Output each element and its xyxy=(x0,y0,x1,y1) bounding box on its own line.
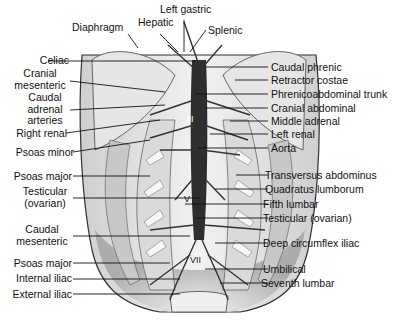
label-fifth-lumbar: Fifth lumbar xyxy=(263,199,318,211)
label-caudal-phrenic: Caudal phrenic xyxy=(271,62,342,74)
vertebra-marker-v: V xyxy=(184,194,190,206)
label-left-renal: Left renal xyxy=(271,129,315,141)
label-testicular-ovarian-left: Testicular (ovarian) xyxy=(18,186,72,209)
label-retractor-costae: Retractor costae xyxy=(271,75,348,87)
label-psoas-major: Psoas major xyxy=(14,171,72,183)
label-external-iliac: External iliac xyxy=(12,289,72,301)
anatomy-figure: III V VII Diaphragm Hepatic Left gastric… xyxy=(0,0,398,326)
label-transversus-abdominus: Transversus abdominus xyxy=(265,170,377,182)
label-quadratus-lumborum: Quadratus lumborum xyxy=(265,184,364,196)
label-hepatic: Hepatic xyxy=(138,17,174,29)
vertebra-marker-vii: VII xyxy=(190,255,201,267)
label-phrenicoabdominal-trunk: Phrenicoabdominal trunk xyxy=(271,89,387,101)
sacrum xyxy=(170,292,228,313)
label-cranial-abdominal: Cranial abdominal xyxy=(271,103,356,115)
label-right-renal: Right renal xyxy=(16,128,67,140)
label-seventh-lumbar: Seventh lumbar xyxy=(261,278,335,290)
label-left-gastric: Left gastric xyxy=(160,4,211,16)
label-celiac: Celiac xyxy=(40,55,69,67)
label-cranial-mesenteric: Cranial mesenteric xyxy=(10,68,70,91)
label-caudal-adrenal-arteries: Caudal adrenal arteries xyxy=(20,92,70,127)
label-middle-adrenal: Middle adrenal xyxy=(271,116,340,128)
label-psoas-minor: Psoas minor xyxy=(16,147,74,159)
label-aorta: Aorta xyxy=(271,143,296,155)
label-umbilical: Umbilical xyxy=(263,264,306,276)
vertebra-marker-iii: III xyxy=(186,114,194,126)
label-testicular-ovarian-right: Testicular (ovarian) xyxy=(263,213,352,225)
label-deep-circumflex-iliac: Deep circumflex iliac xyxy=(263,238,359,250)
label-diaphragm: Diaphragm xyxy=(72,22,123,34)
label-splenic: Splenic xyxy=(208,25,242,37)
label-caudal-mesenteric: Caudal mesenteric xyxy=(12,224,72,247)
label-internal-iliac: Internal iliac xyxy=(16,273,72,285)
label-psoas-major-lower: Psoas major xyxy=(14,258,72,270)
